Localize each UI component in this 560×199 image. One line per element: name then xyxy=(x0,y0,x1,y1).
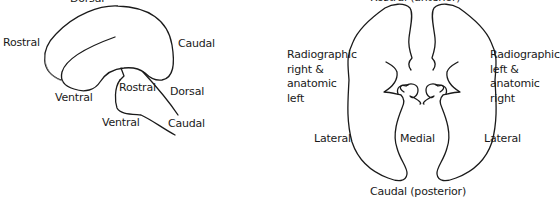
cerebrum-notch xyxy=(120,68,124,80)
label-stem-ventral: Ventral xyxy=(102,116,140,130)
cerebrum-faint-edge xyxy=(45,55,62,81)
label-stem-caudal: Caudal xyxy=(168,117,205,131)
label-rostral-anterior: Rostral (anterior) xyxy=(370,0,460,5)
label-stem-dorsal: Dorsal xyxy=(170,85,204,99)
label-rostral-left: Rostral xyxy=(3,36,40,50)
label-lateral-left: Lateral xyxy=(314,132,351,146)
right-hemisphere-outline xyxy=(432,4,496,180)
label-lateral-right: Lateral xyxy=(484,132,521,146)
label-medial: Medial xyxy=(400,132,435,146)
label-caudal-right: Caudal xyxy=(178,37,215,51)
label-radiographic-left: Radiographic left & anatomic right xyxy=(490,48,552,106)
label-dorsal-top: Dorsal xyxy=(70,0,104,6)
left-hemisphere-outline xyxy=(348,4,412,180)
label-caudal-posterior: Caudal (posterior) xyxy=(370,185,466,199)
label-ventral-bottom: Ventral xyxy=(55,91,93,105)
label-radiographic-right: Radiographic right & anatomic left xyxy=(287,48,357,106)
cerebrum-outline xyxy=(45,6,174,91)
label-stem-rostral: Rostral xyxy=(119,81,156,95)
